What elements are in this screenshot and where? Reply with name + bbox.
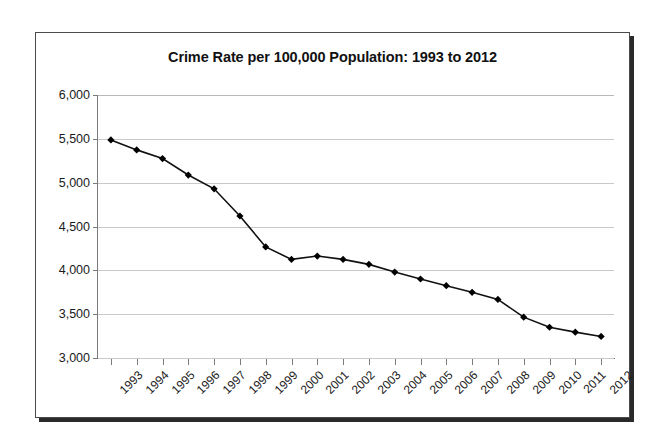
data-point-marker: [365, 261, 372, 268]
x-tick-label: 1994: [143, 368, 172, 397]
y-tick-label: 4,000: [59, 263, 90, 277]
y-tick-label: 5,500: [59, 132, 90, 146]
x-tick-mark: [214, 359, 215, 365]
y-tick-label: 6,000: [59, 88, 90, 102]
x-tick-mark: [292, 359, 293, 365]
data-point-marker: [598, 333, 605, 340]
data-point-marker: [314, 252, 321, 259]
data-point-marker: [133, 146, 140, 153]
series-markers: [107, 136, 604, 340]
data-point-marker: [417, 275, 424, 282]
x-tick-label: 1996: [194, 368, 223, 397]
x-tick-mark: [163, 359, 164, 365]
series-line: [111, 140, 601, 336]
x-tick-label: 1998: [246, 368, 275, 397]
data-point-marker: [107, 136, 114, 143]
x-tick-mark: [472, 359, 473, 365]
x-tick-mark: [266, 359, 267, 365]
x-tick-mark: [601, 359, 602, 365]
x-tick-label: 1999: [272, 368, 301, 397]
chart-figure: Crime Rate per 100,000 Population: 1993 …: [35, 32, 630, 418]
x-tick-mark: [240, 359, 241, 365]
x-tick-label: 2006: [452, 368, 481, 397]
x-tick-mark: [446, 359, 447, 365]
x-tick-label: 2000: [297, 368, 326, 397]
x-tick-label: 2007: [478, 368, 507, 397]
data-point-marker: [469, 289, 476, 296]
x-tick-label: 2003: [375, 368, 404, 397]
y-tick-label: 4,500: [59, 220, 90, 234]
x-tick-mark: [343, 359, 344, 365]
y-tick-label: 3,000: [59, 351, 90, 365]
data-point-marker: [288, 256, 295, 263]
x-tick-mark: [498, 359, 499, 365]
data-point-marker: [572, 329, 579, 336]
data-point-marker: [391, 268, 398, 275]
x-tick-label: 2001: [323, 368, 352, 397]
x-tick-label: 2004: [401, 368, 430, 397]
x-tick-mark: [188, 359, 189, 365]
x-tick-label: 2010: [555, 368, 584, 397]
x-tick-label: 2009: [530, 368, 559, 397]
x-tick-label: 2005: [426, 368, 455, 397]
x-tick-label: 2011: [581, 368, 609, 396]
x-tick-mark: [317, 359, 318, 365]
x-tick-mark: [550, 359, 551, 365]
y-tick-label: 3,500: [59, 307, 90, 321]
x-tick-label: 1993: [117, 368, 146, 397]
x-tick-mark: [369, 359, 370, 365]
x-tick-label: 2012: [607, 368, 636, 397]
x-tick-mark: [111, 359, 112, 365]
x-tick-label: 2008: [504, 368, 533, 397]
x-tick-mark: [137, 359, 138, 365]
x-tick-mark: [524, 359, 525, 365]
data-point-marker: [546, 324, 553, 331]
x-axis-ticks: 1993199419951996199719981999200020012002…: [98, 359, 614, 445]
x-tick-mark: [575, 359, 576, 365]
x-tick-mark: [395, 359, 396, 365]
data-point-marker: [443, 282, 450, 289]
y-tick-label: 5,000: [59, 176, 90, 190]
chart-title: Crime Rate per 100,000 Population: 1993 …: [36, 49, 629, 65]
crime-rate-series: [98, 95, 614, 358]
x-tick-label: 1997: [220, 368, 249, 397]
x-tick-mark: [421, 359, 422, 365]
plot-area: 6,0005,5005,0004,5004,0003,5003,000: [98, 95, 614, 358]
x-tick-label: 1995: [168, 368, 197, 397]
data-point-marker: [340, 256, 347, 263]
x-tick-label: 2002: [349, 368, 378, 397]
